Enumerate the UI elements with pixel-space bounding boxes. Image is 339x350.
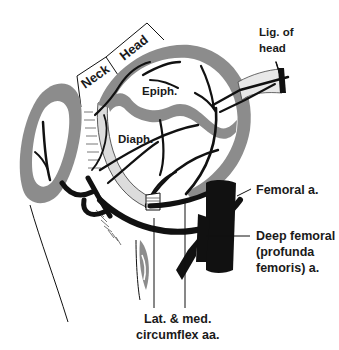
femur-outline (30, 205, 140, 322)
deep-femoral-label-line1: Deep femoral (256, 229, 335, 243)
deep-femoral-label-line3: femoris) a. (256, 261, 319, 275)
deep-femoral-label-line2: (profunda (256, 245, 315, 259)
femoral-head-blood-supply-diagram: Neck Head (0, 0, 339, 350)
diaphysis-label: Diaph. (118, 133, 153, 145)
ligament-of-head-label-line2: head (259, 42, 286, 54)
ligament-of-head-label-line1: Lig. of (259, 26, 294, 38)
epiphysis-label: Epiph. (142, 85, 177, 97)
acetabulum (20, 84, 82, 204)
circumflex-label-line2: circumflex aa. (136, 328, 219, 342)
circumflex-label-line1: Lat. & med. (144, 312, 211, 326)
femoral-artery-label: Femoral a. (256, 183, 319, 197)
